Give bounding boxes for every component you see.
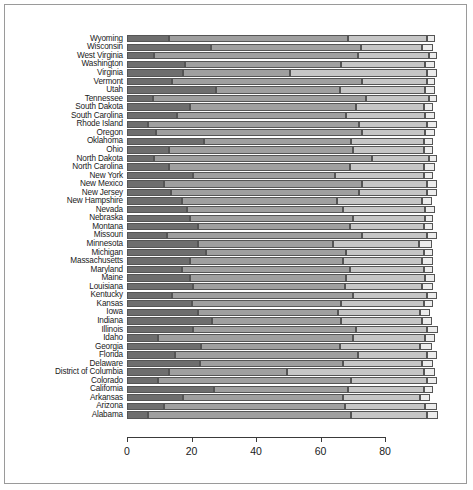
axis-tick-label: 60 bbox=[315, 445, 327, 457]
chart-frame: WyomingWisconsinWest VirginiaWashingtonV… bbox=[4, 4, 467, 484]
chart-plot-area: WyomingWisconsinWest VirginiaWashingtonV… bbox=[5, 5, 468, 485]
axis-tick bbox=[127, 437, 128, 442]
axis-tick bbox=[192, 437, 193, 442]
axis-tick-label: 0 bbox=[124, 445, 130, 457]
axis-tick-label: 80 bbox=[379, 445, 391, 457]
axis-tick bbox=[256, 437, 257, 442]
axis-tick-label: 20 bbox=[186, 445, 198, 457]
axis-tick bbox=[321, 437, 322, 442]
axis-tick bbox=[385, 437, 386, 442]
axis-tick-label: 40 bbox=[250, 445, 262, 457]
value-axis: 020406080 bbox=[5, 5, 468, 485]
